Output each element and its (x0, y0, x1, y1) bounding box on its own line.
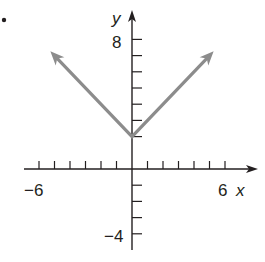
y-max-label: 8 (112, 33, 121, 52)
problem-number-fragment (2, 18, 6, 22)
graph: −6 6 x y 8 −4 (0, 0, 265, 262)
x-max-label: 6 (218, 181, 227, 200)
x-min-label: −6 (24, 181, 43, 200)
x-axis-label: x (235, 181, 245, 200)
y-axis-label: y (111, 9, 122, 28)
y-min-label: −4 (104, 227, 123, 246)
axes (24, 10, 258, 250)
